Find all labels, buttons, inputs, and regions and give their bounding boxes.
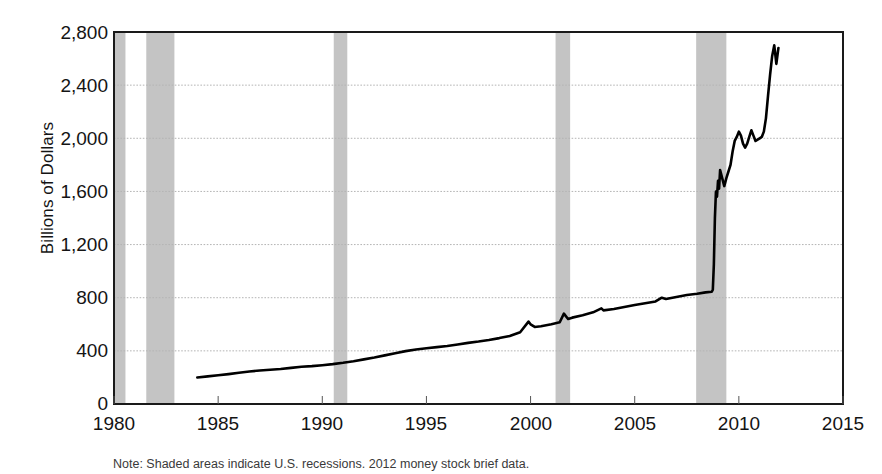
- x-tick-label: 1980: [59, 414, 169, 433]
- x-tick-label: 2015: [788, 414, 882, 433]
- x-tick-label: 2000: [476, 414, 586, 433]
- x-tick-label: 1995: [371, 414, 481, 433]
- x-axis-tick-labels: 1980 1985 1990 1995 2000 2005 2010 2015: [0, 0, 882, 474]
- figure-note: Note: Shaded areas indicate U.S. recessi…: [113, 457, 813, 473]
- x-tick-label: 2010: [684, 414, 794, 433]
- chart-figure: Billions of Dollars 2,800 2,400 2,000 1,…: [0, 0, 882, 474]
- x-tick-label: 1990: [267, 414, 377, 433]
- x-tick-label: 1985: [163, 414, 273, 433]
- x-tick-label: 2005: [580, 414, 690, 433]
